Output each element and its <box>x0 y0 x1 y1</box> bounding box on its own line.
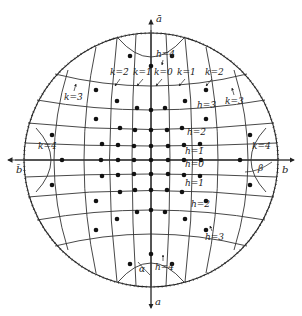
label-k-2: k=2 <box>205 67 224 77</box>
axis-label-b-bar: b̄ <box>16 164 22 175</box>
axis-label-a-bar: ā <box>156 13 162 24</box>
axis-label-a: a <box>155 296 161 307</box>
label-h-bottom-4: h=4 <box>155 262 174 272</box>
axis-label-b: b <box>282 164 288 175</box>
label-h-1: h=1 <box>185 178 204 188</box>
label-k-neg4: k=4̄ <box>38 141 57 151</box>
label-h-2: h=2 <box>191 199 210 209</box>
label-k-neg1: k=1̄ <box>133 67 152 77</box>
label-h-neg1: h=1̄ <box>185 146 204 156</box>
label-k-1: k=1 <box>177 67 196 77</box>
label-h-neg2: h=2̄ <box>187 127 206 137</box>
label-h-top-4: h=4 <box>156 49 175 59</box>
label-k-neg3: k=3̄ <box>64 92 83 102</box>
label-k-3: k=3 <box>225 96 244 106</box>
label-h-3: h=3 <box>205 232 224 242</box>
label-k-neg2: k=2̄ <box>110 67 129 77</box>
label-k-4: k=4 <box>252 141 271 151</box>
label-h-0: h=0 <box>185 159 204 169</box>
label-h-neg3: h=3̄ <box>197 100 216 110</box>
hyperbolic-grid-diagram: ā a b̄ b α β k=4̄ k=3̄ k=2̄ k=1̄ k=0 k=1… <box>0 0 302 316</box>
label-k-0: k=0 <box>154 67 173 77</box>
